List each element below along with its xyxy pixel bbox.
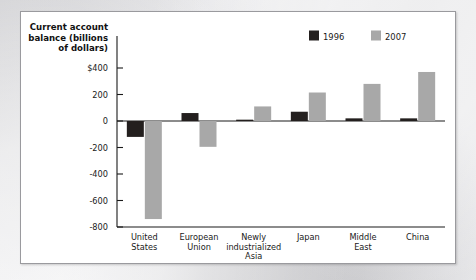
legend-swatch xyxy=(371,31,381,41)
bar xyxy=(182,113,199,121)
axis-title-line: Current account xyxy=(30,22,108,32)
axis-title-line: balance (billions xyxy=(28,33,108,43)
figure-panel: Current accountbalance (billionsof dolla… xyxy=(20,11,456,264)
y-axis-tick-label: -800 xyxy=(89,222,108,232)
y-axis-tick-label: -200 xyxy=(89,143,108,153)
x-axis-category-label: States xyxy=(131,242,157,252)
x-axis-category-label: Newly xyxy=(241,232,266,242)
x-axis-category-label: industrialized xyxy=(226,242,281,252)
x-axis-category-label: Asia xyxy=(245,251,262,261)
legend-label: 2007 xyxy=(385,32,406,42)
bar xyxy=(127,121,144,137)
y-axis-tick-label: $400 xyxy=(87,63,108,73)
bar xyxy=(145,121,162,219)
x-axis-category-label: China xyxy=(406,232,429,242)
bar xyxy=(254,106,271,121)
x-axis-category-label: European xyxy=(180,232,219,242)
x-axis-category-label: Middle xyxy=(349,232,376,242)
x-axis-category-label: Japan xyxy=(296,232,320,242)
x-axis-category-label: East xyxy=(354,242,372,252)
legend-label: 1996 xyxy=(323,32,344,42)
bar xyxy=(200,121,217,147)
bar xyxy=(236,120,253,121)
y-axis-tick-label: -400 xyxy=(89,169,108,179)
axis-title-line: of dollars) xyxy=(58,43,108,53)
y-axis-tick-label: 0 xyxy=(103,116,108,126)
x-axis-category-label: Union xyxy=(187,242,211,252)
bar-chart: Current accountbalance (billionsof dolla… xyxy=(21,12,455,263)
bar xyxy=(418,72,435,121)
y-axis-tick-label: -600 xyxy=(89,196,108,206)
bar xyxy=(346,118,363,121)
y-axis-tick-label: 200 xyxy=(92,90,108,100)
bar xyxy=(309,93,326,121)
x-axis-category-label: United xyxy=(131,232,158,242)
legend-swatch xyxy=(309,31,319,41)
bar xyxy=(291,112,308,121)
bar xyxy=(400,118,417,121)
bar xyxy=(364,84,381,121)
